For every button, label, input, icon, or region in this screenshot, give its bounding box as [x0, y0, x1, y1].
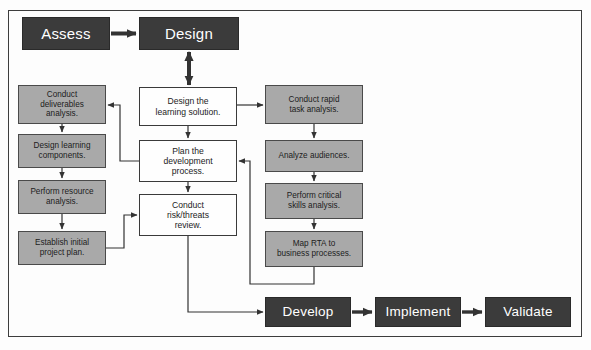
phase-label-validate: Validate — [501, 304, 554, 320]
task-label-deliverables-analysis: Conduct deliverables analysis. — [38, 90, 86, 119]
task-box-deliverables-analysis[interactable]: Conduct deliverables analysis. — [18, 85, 106, 124]
task-box-learning-components[interactable]: Design learning components. — [18, 134, 106, 168]
task-box-initial-project-plan[interactable]: Establish initial project plan. — [18, 231, 106, 265]
phase-label-develop: Develop — [281, 304, 336, 320]
task-box-map-rta[interactable]: Map RTA to business processes. — [265, 231, 363, 267]
task-box-design-solution[interactable]: Design the learning solution. — [139, 87, 237, 126]
phase-box-validate[interactable]: Validate — [485, 297, 571, 327]
task-box-critical-skills[interactable]: Perform critical skills analysis. — [265, 183, 363, 219]
task-label-rapid-task-analysis: Conduct rapid task analysis. — [287, 95, 342, 114]
phase-label-implement: Implement — [384, 304, 453, 320]
task-box-rapid-task-analysis[interactable]: Conduct rapid task analysis. — [265, 85, 363, 124]
task-label-resource-analysis: Perform resource analysis. — [28, 187, 95, 206]
task-box-plan-development[interactable]: Plan the development process. — [139, 140, 237, 182]
phase-box-develop[interactable]: Develop — [265, 297, 351, 327]
task-box-resource-analysis[interactable]: Perform resource analysis. — [18, 180, 106, 214]
task-label-analyze-audiences: Analyze audiences. — [276, 151, 351, 161]
diagram-canvas: Assess Design Develop Implement Validate… — [0, 0, 591, 350]
task-label-plan-development: Plan the development process. — [161, 146, 214, 176]
task-box-analyze-audiences[interactable]: Analyze audiences. — [265, 140, 363, 172]
diagram-frame — [8, 10, 582, 337]
phase-box-design[interactable]: Design — [139, 17, 239, 50]
task-label-map-rta: Map RTA to business processes. — [275, 239, 353, 258]
phase-label-design: Design — [163, 25, 215, 43]
phase-label-assess: Assess — [39, 25, 93, 43]
task-label-design-solution: Design the learning solution. — [154, 96, 223, 116]
task-label-risk-review: Conduct risk/threats review. — [165, 200, 211, 230]
task-label-initial-project-plan: Establish initial project plan. — [33, 238, 91, 257]
task-label-learning-components: Design learning components. — [32, 141, 93, 160]
phase-box-implement[interactable]: Implement — [375, 297, 461, 327]
task-box-risk-review[interactable]: Conduct risk/threats review. — [139, 194, 237, 236]
phase-box-assess[interactable]: Assess — [22, 17, 110, 50]
task-label-critical-skills: Perform critical skills analysis. — [285, 191, 344, 210]
